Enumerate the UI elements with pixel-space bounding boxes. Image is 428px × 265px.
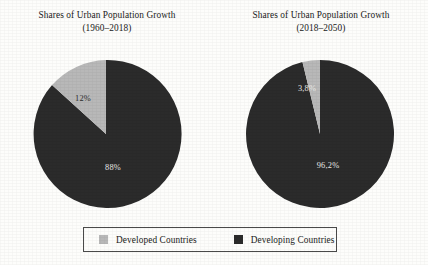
legend-entry-developing[interactable]: Developing Countries	[234, 228, 335, 251]
chart-legend: Developed Countries Developing Countries	[83, 227, 337, 252]
chart-title-1960-2018: Shares of Urban Population Growth (1960–…	[0, 9, 214, 35]
legend-swatch-developed-icon	[99, 235, 108, 244]
pie-chart-panels: Shares of Urban Population Growth (1960–…	[0, 0, 428, 218]
chart-title-line1: Shares of Urban Population Growth	[38, 10, 175, 20]
chart-title-line1: Shares of Urban Population Growth	[252, 10, 389, 20]
pie-label-developed-2018-2050: 3,8%	[298, 84, 316, 93]
legend-label-developing: Developing Countries	[251, 235, 335, 245]
pie-wrap-2018-2050: 3,8% 96,2%	[214, 58, 428, 210]
chart-title-line2: (1960–2018)	[0, 22, 214, 35]
pie-wrap-1960-2018: 12% 88%	[0, 58, 214, 210]
pie-chart-2018-2050: 3,8% 96,2%	[241, 58, 401, 210]
pie-panel-1960-2018: Shares of Urban Population Growth (1960–…	[0, 0, 214, 218]
legend-label-developed: Developed Countries	[116, 235, 197, 245]
legend-entry-developed[interactable]: Developed Countries	[99, 228, 197, 251]
pie-chart-1960-2018: 12% 88%	[27, 58, 187, 210]
chart-title-2018-2050: Shares of Urban Population Growth (2018–…	[214, 9, 428, 35]
pie-panel-2018-2050: Shares of Urban Population Growth (2018–…	[214, 0, 428, 218]
pie-label-developing-2018-2050: 96,2%	[317, 161, 340, 170]
chart-title-line2: (2018–2050)	[214, 22, 428, 35]
legend-swatch-developing-icon	[234, 235, 243, 244]
pie-label-developing-1960-2018: 88%	[105, 163, 121, 172]
figure-urban-population-growth: Shares of Urban Population Growth (1960–…	[0, 0, 428, 265]
pie-label-developed-1960-2018: 12%	[75, 94, 91, 103]
pie-slice-developing-2018-2050[interactable]	[246, 60, 394, 208]
